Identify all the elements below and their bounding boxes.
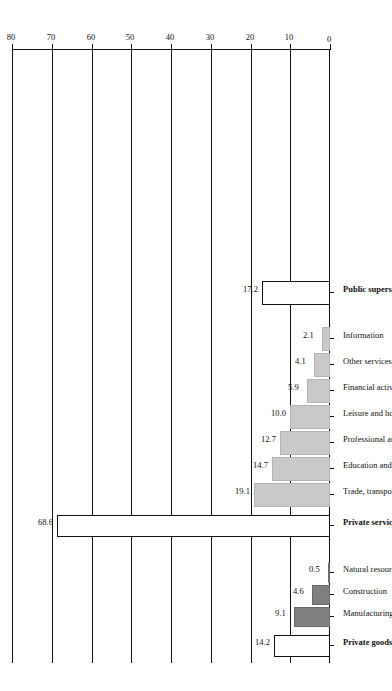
bar-4 <box>57 515 330 537</box>
value-tick-10 <box>290 44 291 50</box>
category-label-12: Public supersector (government) <box>343 284 392 294</box>
category-label-1: Manufacturing <box>343 608 392 618</box>
category-tick-2 <box>330 594 334 595</box>
gridline-50 <box>131 49 132 663</box>
category-tick-0 <box>330 645 334 646</box>
category-label-7: Professional and business services <box>343 434 392 444</box>
category-tick-4 <box>330 525 334 526</box>
value-label-5: 19.1 <box>235 486 250 496</box>
value-label-7: 12.7 <box>261 434 276 444</box>
value-tick-80 <box>12 44 13 50</box>
category-label-0: Private goods-producing supersector <box>343 637 392 647</box>
category-tick-8 <box>330 416 334 417</box>
value-tick-label-80: 80 <box>7 32 16 42</box>
gridline-70 <box>52 49 53 663</box>
value-label-10: 4.1 <box>295 356 306 366</box>
chart-canvas: 0102030405060708014.2Private goods-produ… <box>0 0 392 691</box>
value-tick-label-40: 40 <box>166 32 175 42</box>
category-label-5: Trade, transportation, and utilities <box>343 486 392 496</box>
plot-area: 0102030405060708014.2Private goods-produ… <box>12 49 330 663</box>
gridline-40 <box>171 49 172 663</box>
bar-11 <box>322 327 330 351</box>
category-tick-12 <box>330 292 334 293</box>
value-tick-50 <box>131 44 132 50</box>
value-tick-label-20: 20 <box>245 32 254 42</box>
value-label-8: 10.0 <box>271 408 286 418</box>
gridline-10 <box>290 49 291 663</box>
value-label-12: 17.2 <box>243 284 258 294</box>
value-label-2: 4.6 <box>293 586 304 596</box>
category-label-2: Construction <box>343 586 387 596</box>
category-tick-5 <box>330 494 334 495</box>
value-tick-label-70: 70 <box>47 32 56 42</box>
value-tick-40 <box>171 44 172 50</box>
category-tick-3 <box>330 572 334 573</box>
bar-5 <box>254 483 330 507</box>
bar-6 <box>272 457 330 481</box>
value-label-4: 68.6 <box>38 517 53 527</box>
bar-2 <box>312 585 330 605</box>
category-label-10: Other services <box>343 356 392 366</box>
value-tick-label-30: 30 <box>206 32 215 42</box>
category-tick-1 <box>330 616 334 617</box>
value-tick-label-60: 60 <box>86 32 95 42</box>
bar-12 <box>262 281 330 305</box>
value-tick-label-0: 0 <box>327 34 331 44</box>
value-tick-label-50: 50 <box>126 32 135 42</box>
value-label-9: 5.9 <box>288 382 299 392</box>
category-label-3: Natural resources and mining <box>343 564 392 574</box>
gridline-20 <box>251 49 252 663</box>
category-tick-11 <box>330 338 334 339</box>
value-label-3: 0.5 <box>309 564 320 574</box>
category-label-4: Private service-providing supersector <box>343 517 392 527</box>
category-tick-10 <box>330 364 334 365</box>
category-label-8: Leisure and hospitality <box>343 408 392 418</box>
value-tick-20 <box>251 44 252 50</box>
value-label-0: 14.2 <box>255 637 270 647</box>
gridline-80 <box>12 49 13 663</box>
category-tick-9 <box>330 390 334 391</box>
bar-3 <box>328 563 330 583</box>
value-tick-70 <box>52 44 53 50</box>
bar-1 <box>294 607 330 627</box>
value-label-1: 9.1 <box>275 608 286 618</box>
category-label-11: Information <box>343 330 384 340</box>
bar-9 <box>307 379 330 403</box>
category-label-6: Education and health services <box>343 460 392 470</box>
value-tick-60 <box>92 44 93 50</box>
bar-0 <box>274 635 330 657</box>
gridline-60 <box>92 49 93 663</box>
value-tick-0 <box>330 44 331 50</box>
value-tick-label-10: 10 <box>285 32 294 42</box>
bar-8 <box>290 405 330 429</box>
value-tick-30 <box>211 44 212 50</box>
category-tick-6 <box>330 468 334 469</box>
category-tick-7 <box>330 442 334 443</box>
value-label-11: 2.1 <box>303 330 314 340</box>
bar-7 <box>280 431 330 455</box>
category-label-9: Financial activities <box>343 382 392 392</box>
gridline-30 <box>211 49 212 663</box>
value-label-6: 14.7 <box>253 460 268 470</box>
bar-10 <box>314 353 330 377</box>
